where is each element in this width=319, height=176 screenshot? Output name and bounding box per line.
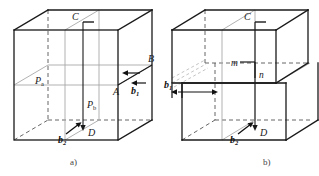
panel-b-label-c: C <box>244 11 251 22</box>
panel-b-lower-block-edges <box>182 63 318 140</box>
panel-a-label-b2: b2 <box>58 134 67 146</box>
panel-b-label-b2: b2 <box>230 134 239 146</box>
figure-container: Pa Pb C D A B b1 b2 a) <box>0 0 319 176</box>
panel-a-label-pa: Pa <box>34 75 44 87</box>
panel-a-label-pb: Pb <box>86 99 96 111</box>
panel-b-d-arrowhead <box>252 125 257 131</box>
panel-a-drawing: Pa Pb C D A B b1 b2 a) <box>0 0 160 176</box>
panel-b-b1-dimension-line <box>172 84 215 98</box>
panel-b-caption: b) <box>263 157 271 167</box>
panel-a-b1-arrowhead-upper <box>122 70 128 75</box>
panel-a-label-b1: b1 <box>131 85 139 97</box>
panel-a-label-b: B <box>148 53 154 64</box>
panel-b-step-mn <box>240 62 255 78</box>
panel-a-label-d: D <box>87 127 96 138</box>
panel-a-caption: a) <box>70 157 77 167</box>
panel-b-label-n: n <box>259 70 264 80</box>
panel-a-label-c: C <box>72 11 79 22</box>
panel-a-label-a: A <box>112 86 120 97</box>
panel-b-label-m: m <box>231 58 238 68</box>
panel-b-drawing: C D m n b1 b2 b) <box>160 0 319 176</box>
panel-b-label-b1: b1 <box>164 79 172 91</box>
panel-b-label-d: D <box>259 127 268 138</box>
